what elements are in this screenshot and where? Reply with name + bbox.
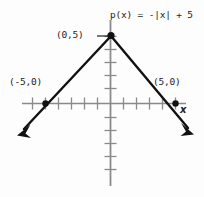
curve-right-arrowhead <box>181 123 195 136</box>
curve-left-arrowhead <box>17 125 31 139</box>
left-x-intercept-label: (-5,0) <box>9 76 42 87</box>
absolute-value-graph-figure: p(x) = -|x| + 5 (0,5) (-5,0) (5,0) x <box>0 0 204 197</box>
left-intercept-point <box>42 100 48 106</box>
x-axis-label: x <box>180 104 186 115</box>
equation-label: p(x) = -|x| + 5 <box>110 9 193 20</box>
vertex-point-label: (0,5) <box>56 29 84 40</box>
right-x-intercept-label: (5,0) <box>153 76 181 87</box>
coordinate-plane-svg <box>0 0 204 197</box>
right-intercept-point <box>172 100 178 106</box>
vertex-point <box>107 32 114 39</box>
